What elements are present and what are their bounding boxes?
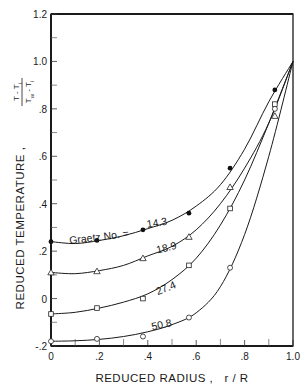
data-curves [51, 61, 293, 341]
graetz-number-label: Graetz No. = [68, 227, 129, 246]
open-circle-marker [186, 315, 191, 320]
temperature-profile-chart: -.20.2.4.6.81.01.20.2.4.6.81.0 14.318.92… [0, 0, 306, 389]
filled-circle-marker [49, 239, 54, 244]
y-tick-label: .6 [39, 151, 48, 162]
x-tick-label: 1.0 [286, 351, 300, 362]
open-circle-marker [140, 334, 145, 339]
open-square-marker [187, 263, 192, 268]
x-tick-label: .6 [192, 351, 201, 362]
curve-labels: 14.318.927.450.8Graetz No. = [68, 215, 177, 333]
filled-circle-marker [141, 227, 146, 232]
curve-label-50-8: 50.8 [150, 316, 173, 332]
open-square-marker [95, 306, 100, 311]
open-square-marker [228, 206, 233, 211]
open-circle-marker [272, 106, 277, 111]
open-triangle-marker [48, 269, 54, 275]
y-tick-label: 1.2 [33, 9, 47, 20]
open-triangle-marker [140, 255, 146, 261]
fraction-numerator: T - Ti [12, 83, 23, 101]
x-axis-title: REDUCED RADIUS , r / R [95, 372, 248, 384]
open-circle-marker [228, 265, 233, 270]
y-tick-label: 0 [41, 294, 47, 305]
open-circle-marker [94, 336, 99, 341]
plot-frame [51, 14, 293, 346]
filled-circle-marker [187, 211, 192, 216]
y-tick-label: .2 [39, 246, 48, 257]
y-tick-label: 1.0 [33, 56, 47, 67]
open-square-marker [49, 312, 54, 317]
open-square-marker [273, 102, 278, 107]
curve-graetz-27-4 [51, 61, 293, 314]
filled-circle-marker [272, 87, 277, 92]
curve-label-18-9: 18.9 [155, 239, 178, 256]
open-square-marker [141, 296, 146, 301]
filled-circle-marker [228, 166, 233, 171]
open-circle-marker [49, 339, 54, 344]
fraction-denominator: Tw - Ti [24, 81, 35, 103]
curve-graetz-50-8 [51, 61, 293, 341]
y-tick-label: .8 [39, 104, 48, 115]
x-tick-label: .8 [240, 351, 249, 362]
curve-label-14-3: 14.3 [146, 215, 168, 230]
y-tick-label: .4 [39, 199, 48, 210]
x-tick-label: .4 [144, 351, 153, 362]
curve-label-27-4: 27.4 [154, 278, 178, 297]
x-tick-label: .2 [95, 351, 104, 362]
plot-border [51, 14, 293, 346]
y-axis-title: REDUCED TEMPERATURE , [14, 147, 26, 310]
y-axis-fraction-label: T - TiTw - Ti [12, 78, 35, 106]
y-tick-label: -.2 [35, 341, 47, 352]
x-tick-label: 0 [48, 351, 54, 362]
